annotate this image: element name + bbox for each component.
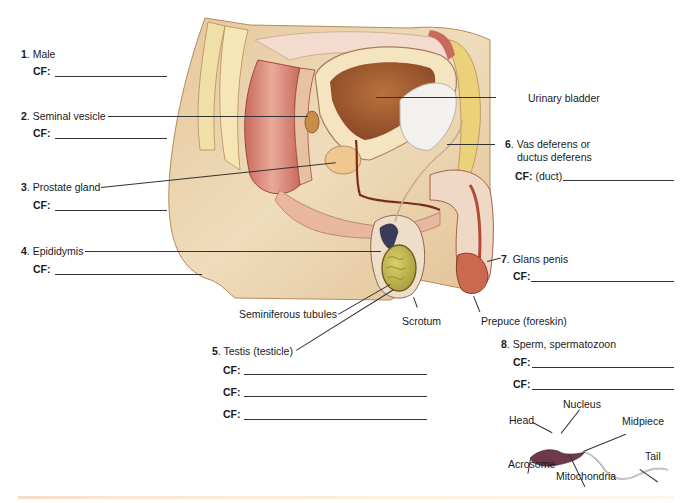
urinary-bladder-leader [376,97,496,98]
label-prostate-gland: 3. Prostate gland [21,181,100,193]
cf-label: CF: [33,263,51,275]
label-epididymis: 4. Epididymis [21,245,83,257]
testis-cf-input-3[interactable] [244,419,427,420]
glans-cf-input[interactable] [531,281,674,282]
cf-label: CF: [513,270,531,282]
label-glans-penis: 7. Glans penis [501,253,568,265]
cf-label: CF: [223,408,241,420]
seminal-vesicle-cf-input[interactable] [55,138,167,139]
label-head: Head [509,414,534,426]
vas-deferens-cf-input[interactable] [563,180,674,181]
label-midpiece: Midpiece [622,415,664,427]
label-male: 1. Male [21,48,55,60]
label-mitochondria: Mitochondria [556,470,616,482]
cf-label: CF: [33,199,51,211]
vas-deferens-leader [447,144,495,145]
epididymis-leader [85,251,381,252]
label-testis: 5. Testis (testicle) [212,345,293,357]
label-urinary-bladder: Urinary bladder [528,92,600,104]
epididymis-cf-input[interactable] [55,274,202,275]
label-vas-deferens: 6. Vas deferens or [505,138,590,150]
label-seminiferous-tubules: Seminiferous tubules [239,308,337,320]
cf-label: CF: [33,127,51,139]
bottom-border-band [18,496,674,499]
label-sperm: 8. Sperm, spermatozoon [501,338,616,350]
testis-cf-input-1[interactable] [244,374,427,375]
label-seminal-vesicle: 2. Seminal vesicle [21,110,106,122]
label-ductus-deferens: ductus deferens [517,151,592,163]
label-tail: Tail [645,450,661,462]
cf-label: CF: [223,386,241,398]
cf-label: CF: [513,356,531,368]
testis-cf-input-2[interactable] [244,396,427,397]
label-nucleus: Nucleus [563,398,601,410]
sperm-cf-input-1[interactable] [532,367,674,368]
label-prepuce: Prepuce (foreskin) [481,315,567,327]
label-acrosome: Acrosome [508,458,555,470]
cf-label: CF: [513,378,531,390]
sperm-cf-input-2[interactable] [532,389,674,390]
prostate-cf-input[interactable] [55,210,167,211]
label-scrotum: Scrotum [402,315,441,327]
male-cf-input[interactable] [55,76,167,77]
cf-label: CF: [223,364,241,376]
seminal-vesicle-leader [108,116,308,117]
cf-label: CF: (duct) [515,170,562,182]
cf-label: CF: [33,65,51,77]
